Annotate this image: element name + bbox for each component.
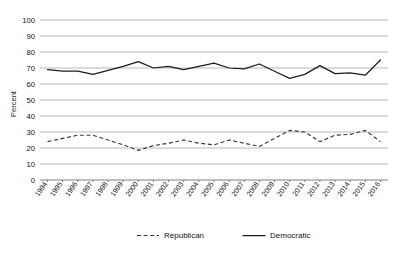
x-tick-label: 1997 <box>78 180 95 198</box>
chart-container: 0102030405060708090100 19941995199619971… <box>0 0 398 254</box>
x-tick-label: 2006 <box>214 180 231 198</box>
x-tick-label: 2015 <box>350 180 367 198</box>
y-tick-label: 30 <box>27 128 35 137</box>
y-tick-label: 40 <box>27 112 35 121</box>
series-line-republican <box>48 130 381 150</box>
y-axis-ticks: 0102030405060708090100 <box>22 16 35 185</box>
x-axis-ticks: 1994199519961997199819992000200120022003… <box>33 180 382 198</box>
y-tick-label: 100 <box>22 16 35 25</box>
x-tick-label: 2007 <box>229 180 246 198</box>
y-tick-label: 0 <box>31 176 35 185</box>
x-tick-label: 2003 <box>169 180 186 198</box>
y-tick-label: 60 <box>27 80 35 89</box>
y-tick-label: 70 <box>27 64 35 73</box>
x-tick-label: 2013 <box>320 180 337 198</box>
legend-label-democratic: Democratic <box>270 231 310 240</box>
x-tick-label: 2000 <box>123 180 140 198</box>
x-tick-label: 1998 <box>93 180 110 198</box>
x-tick-label: 2016 <box>366 180 383 198</box>
x-tick-label: 1994 <box>33 180 50 198</box>
x-tick-label: 2011 <box>290 180 306 198</box>
y-tick-label: 50 <box>27 96 35 105</box>
x-tick-label: 2008 <box>244 180 261 198</box>
y-axis-label: Percent <box>9 90 18 117</box>
series-line-democratic <box>48 60 381 78</box>
x-tick-label: 2014 <box>335 180 352 198</box>
y-tick-label: 10 <box>27 160 35 169</box>
chart-legend: RepublicanDemocratic <box>137 231 310 240</box>
legend-label-republican: Republican <box>164 231 204 240</box>
x-tick-label: 2012 <box>305 180 322 198</box>
y-tick-label: 80 <box>27 48 35 57</box>
data-series <box>48 60 381 150</box>
x-tick-label: 2009 <box>260 180 277 198</box>
x-tick-label: 2010 <box>275 180 292 198</box>
y-tick-label: 90 <box>27 32 35 41</box>
x-tick-label: 2001 <box>139 180 156 198</box>
y-tick-label: 20 <box>27 144 35 153</box>
x-tick-label: 1999 <box>108 180 125 198</box>
line-chart: 0102030405060708090100 19941995199619971… <box>0 0 398 254</box>
x-tick-label: 2004 <box>184 180 201 198</box>
x-tick-label: 1996 <box>63 180 80 198</box>
gridlines <box>40 20 388 180</box>
x-tick-label: 2005 <box>199 180 216 198</box>
x-tick-label: 2002 <box>154 180 171 198</box>
x-tick-label: 1995 <box>48 180 65 198</box>
